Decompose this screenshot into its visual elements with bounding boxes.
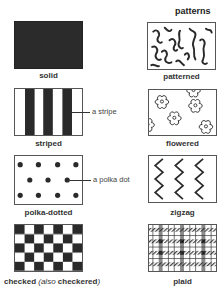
flowered-swatch xyxy=(148,89,217,136)
plaid-label: plaid xyxy=(148,277,217,286)
flower-pattern-icon xyxy=(149,90,216,135)
patterned-label: patterned xyxy=(147,72,216,81)
plaid-swatch xyxy=(148,224,217,272)
zigzag-pattern-icon xyxy=(149,156,216,202)
also-note: also xyxy=(41,277,56,286)
stripe-callout-line xyxy=(72,112,90,113)
flowered-label: flowered xyxy=(148,139,217,148)
plaid-pattern-icon xyxy=(149,225,216,271)
polka-dot-callout: a polka dot xyxy=(93,175,130,184)
checked-label: checked (also checkered) xyxy=(4,277,104,286)
checkered-alt-label: checkered xyxy=(56,277,98,286)
checked-label-main: checked xyxy=(4,277,36,286)
zigzag-swatch xyxy=(148,155,217,203)
squiggle-pattern-icon xyxy=(148,23,215,69)
patterns-title: patterns xyxy=(175,6,211,16)
solid-swatch xyxy=(14,21,83,69)
polka-dotted-label: polka-dotted xyxy=(14,208,83,217)
polka-dot-callout-line xyxy=(68,180,91,181)
zigzag-label: zigzag xyxy=(148,208,217,217)
stripe-callout: a stripe xyxy=(92,107,117,116)
patterned-swatch xyxy=(147,22,216,70)
checked-swatch xyxy=(14,224,83,272)
solid-label: solid xyxy=(14,71,83,80)
striped-label: striped xyxy=(14,139,83,148)
checker-pattern-icon xyxy=(15,225,82,271)
